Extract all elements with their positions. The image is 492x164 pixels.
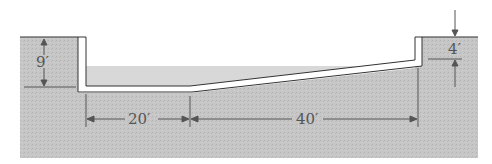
deep-floor-length-label: 20′ <box>128 110 151 128</box>
pool-diagram: 9′ 4′ 20′ 40′ <box>0 0 492 164</box>
shallow-end-label: 4′ <box>448 40 462 58</box>
ground <box>20 37 478 158</box>
slope-length-label: 40′ <box>296 110 319 128</box>
deep-end-label: 9′ <box>36 53 50 71</box>
